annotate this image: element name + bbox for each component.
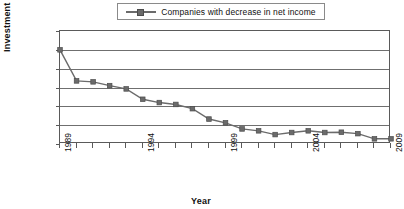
x-tick-mark [357,143,358,148]
x-tick-label: 1989 [63,133,73,152]
x-tick-mark [373,143,374,148]
data-point-marker [174,102,179,107]
x-tick-mark [92,143,93,148]
data-point-marker [207,117,212,122]
data-point-marker [372,137,377,142]
x-axis-title: Year [0,196,402,206]
x-tick-mark [59,143,60,148]
data-point-marker [306,129,311,134]
data-point-marker [240,127,245,132]
legend-marker-icon [126,7,156,16]
series-line-0 [60,50,391,139]
x-tick-mark [241,143,242,148]
legend-label-0: Companies with decrease in net income [161,7,315,17]
data-point-marker [273,132,278,137]
x-tick-mark [109,143,110,148]
data-point-marker [58,48,63,53]
data-point-marker [339,130,344,135]
x-tick-label: 1994 [146,133,156,152]
data-point-marker [190,106,195,111]
x-tick-mark [191,143,192,148]
x-tick-mark [324,143,325,148]
y-axis-title: Investment Value [2,0,12,52]
x-tick-mark [258,143,259,148]
data-point-marker [91,80,96,85]
data-point-marker [124,87,129,92]
plot-area: $0$200$400$600$800$1,000$1,200 [59,30,390,143]
data-point-marker [289,130,294,135]
data-point-marker [356,131,361,136]
chart-legend: Companies with decrease in net income [117,3,325,20]
x-tick-mark [158,143,159,148]
x-axis: 19891994199920042009 [59,143,390,193]
data-point-marker [74,79,79,84]
x-tick-mark [390,143,391,148]
data-point-marker [140,97,145,102]
data-point-marker [223,121,228,126]
data-point-marker [107,83,112,88]
x-tick-mark [125,143,126,148]
data-point-marker [323,130,328,135]
data-point-marker [157,100,162,105]
x-tick-mark [142,143,143,148]
data-point-marker [256,129,261,134]
x-tick-mark [291,143,292,148]
x-tick-mark [175,143,176,148]
x-tick-mark [76,143,77,148]
x-tick-mark [274,143,275,148]
x-tick-mark [225,143,226,148]
x-tick-mark [307,143,308,148]
data-point-marker [389,137,394,142]
x-tick-label: 2009 [394,133,404,152]
x-tick-mark [340,143,341,148]
x-tick-label: 2004 [311,133,321,152]
series-layer [60,31,391,144]
x-tick-mark [208,143,209,148]
x-tick-label: 1999 [229,133,239,152]
